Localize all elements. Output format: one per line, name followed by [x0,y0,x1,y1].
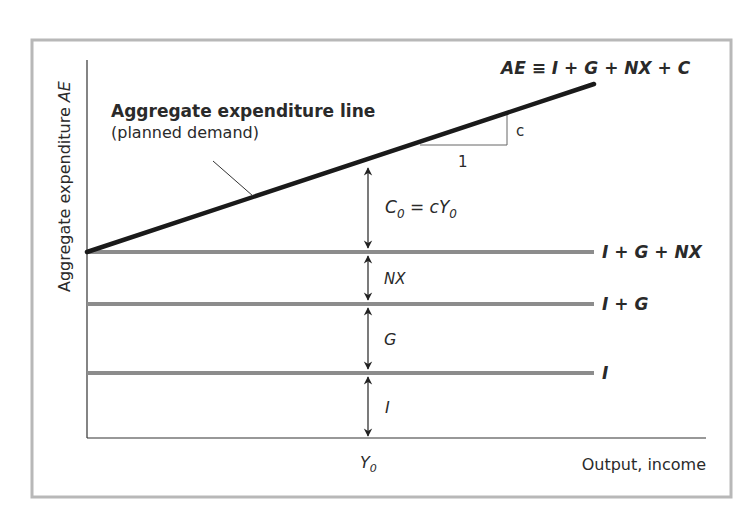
y-axis-label: Aggregate expenditure AE [55,80,74,292]
line-ignx-label: I + G + NX [602,242,703,262]
nx-gap-label: NX [384,270,406,288]
line-i-label: I [602,363,608,383]
i-gap-label: I [385,398,390,417]
x-axis-label: Output, income [582,455,706,474]
slope-c-label: c [516,122,524,140]
g-gap-label: G [384,330,396,349]
ae-diagram: Aggregate expenditure AE Aggregate expen… [0,0,754,517]
line-ig-label: I + G [602,294,648,314]
slope-run-label: 1 [458,153,468,171]
ae-equation: AE ≡ I + G + NX + C [499,58,691,78]
ae-line-subtitle: (planned demand) [111,123,259,142]
ae-line-title: Aggregate expenditure line [111,101,375,121]
